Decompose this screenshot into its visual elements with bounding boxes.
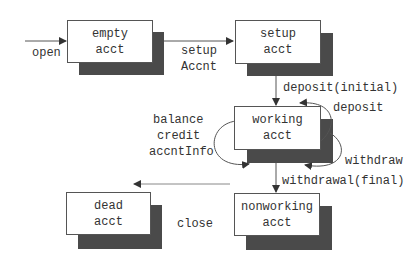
state-label: empty	[92, 26, 128, 42]
label-setup: setup	[181, 43, 217, 59]
state-dead-acct: dead acct	[66, 192, 151, 235]
state-label: nonworking	[241, 199, 313, 215]
state-label: acct	[264, 42, 293, 58]
label-deposit: deposit	[333, 100, 383, 116]
label-open: open	[32, 45, 61, 61]
state-label: acct	[96, 42, 125, 58]
state-label: acct	[263, 128, 292, 144]
state-working-acct: working acct	[234, 106, 321, 150]
label-balance: balance	[153, 112, 203, 128]
label-deposit-initial: deposit(initial)	[283, 80, 398, 96]
state-label: working	[252, 112, 302, 128]
state-nonworking-acct: nonworking acct	[234, 193, 320, 236]
label-withdraw: withdraw	[345, 153, 403, 169]
state-setup-acct: setup acct	[235, 20, 321, 64]
label-accnt: Accnt	[181, 59, 217, 75]
state-empty-acct: empty acct	[67, 20, 153, 63]
state-label: dead	[94, 198, 123, 214]
label-accntinfo: accntInfo	[149, 144, 214, 160]
label-withdrawal-final: withdrawal(final)	[282, 173, 404, 189]
state-label: acct	[94, 214, 123, 230]
state-label: setup	[260, 26, 296, 42]
label-close: close	[177, 216, 213, 232]
label-credit: credit	[157, 128, 200, 144]
state-label: acct	[263, 215, 292, 231]
